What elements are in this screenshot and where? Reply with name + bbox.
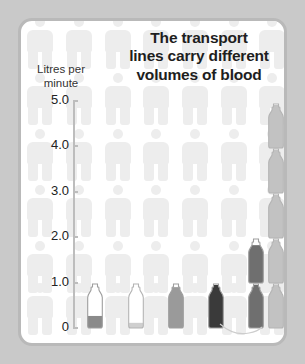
bottle-bar-segment [264, 193, 287, 239]
y-axis-tick-mark [73, 282, 78, 284]
bottle-bar-segment [264, 148, 287, 194]
bottle-bar-segment [124, 283, 148, 329]
bottle-bar-segment [83, 283, 107, 329]
y-axis-tick-mark [73, 236, 78, 238]
y-axis-tick-mark [73, 100, 78, 102]
table-row [164, 21, 188, 346]
y-axis-tick-label: 0 [23, 319, 69, 334]
table-row [204, 21, 228, 346]
bottle-bar-segment [264, 238, 287, 284]
bottle-bar-segment [264, 103, 287, 149]
infographic-card: The transport lines carry different volu… [18, 18, 287, 346]
y-axis-tick-label: 3.0 [23, 183, 69, 198]
table-row [124, 21, 148, 346]
bottle-bar-segment [264, 283, 287, 329]
y-axis-tick-mark [73, 145, 78, 147]
y-axis-tick-mark [73, 327, 78, 329]
person-pictogram [27, 21, 53, 69]
y-axis-tick-label: 5.0 [23, 92, 69, 107]
table-row [83, 21, 107, 346]
table-row [264, 21, 287, 346]
y-axis-tick-label: 2.0 [23, 228, 69, 243]
y-axis-tick-label: 4.0 [23, 137, 69, 152]
y-axis-tick-label: 1.0 [23, 274, 69, 289]
bottle-bar-segment [204, 283, 228, 329]
y-axis-line [73, 101, 75, 328]
bottle-bar-segment [164, 283, 188, 329]
y-axis-tick-mark [73, 191, 78, 193]
